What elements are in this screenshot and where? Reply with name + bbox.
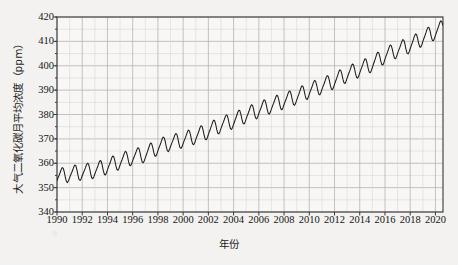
x-axis-tick-labels: 1990199219941996199820002002200420062008… — [0, 214, 458, 230]
x-axis-title: 年份 — [0, 236, 458, 251]
co2-concentration-chart-figure: 大气二氧化碳月平均浓度（ppm） 34035036037038039040041… — [0, 0, 458, 265]
x-axis-tick-label: 2020 — [418, 214, 452, 225]
